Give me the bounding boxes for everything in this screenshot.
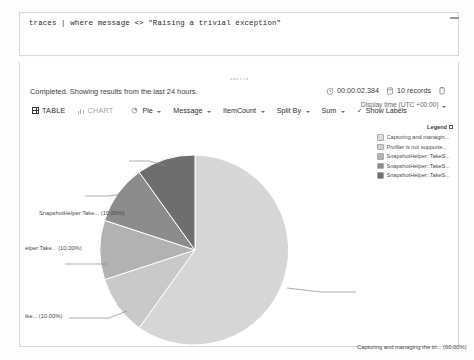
legend-item-label: SnapshotHelper::TakeS... bbox=[387, 153, 450, 159]
split-by-value: Split By bbox=[277, 106, 301, 115]
tab-chart[interactable]: CHART bbox=[76, 105, 116, 116]
pin-icon[interactable] bbox=[449, 125, 454, 130]
aggregation-dropdown[interactable]: Sum bbox=[320, 105, 347, 116]
legend-swatch bbox=[377, 144, 384, 151]
app-root: traces | where message <> "Raising a tri… bbox=[0, 0, 474, 360]
results-status-text: Completed. Showing results from the last… bbox=[30, 87, 198, 96]
chart-area: SnapshotHelper:Take... (10.00%) elper:Ta… bbox=[21, 122, 457, 345]
chevron-down-icon bbox=[341, 111, 345, 113]
query-duration: 00:00:02.384 bbox=[326, 86, 379, 95]
legend-item-label: SnapshotHelper::TakeS... bbox=[387, 163, 450, 169]
chart-type-value: Pie bbox=[142, 106, 152, 115]
timer-icon bbox=[326, 87, 334, 95]
legend-item[interactable]: SnapshotHelper::TakeS... bbox=[377, 161, 455, 171]
pie-icon bbox=[131, 107, 139, 115]
drag-grip-icon[interactable] bbox=[230, 78, 248, 80]
copy-icon[interactable] bbox=[438, 87, 446, 95]
legend-item[interactable]: SnapshotHelper::TakeS... bbox=[377, 171, 455, 181]
x-axis-value: Message bbox=[173, 106, 202, 115]
chart-legend: Legend Capturing and managin...Profiler … bbox=[377, 124, 455, 180]
pie-callout-0: Capturing and managing the tri... (60.00… bbox=[357, 344, 467, 350]
legend-swatch bbox=[377, 163, 384, 170]
query-duration-value: 00:00:02.384 bbox=[337, 86, 379, 95]
tab-table[interactable]: TABLE bbox=[30, 105, 68, 116]
chart-type-dropdown[interactable]: Pie bbox=[129, 105, 163, 116]
legend-item[interactable]: SnapshotHelper::TakeS... bbox=[377, 152, 455, 162]
record-count: 10 records bbox=[386, 86, 431, 95]
y-axis-value: ItemCount bbox=[223, 106, 256, 115]
legend-title: Legend bbox=[427, 124, 447, 130]
legend-item-label: SnapshotHelper::TakeS... bbox=[387, 172, 450, 178]
results-status-row: Completed. Showing results from the last… bbox=[30, 86, 448, 100]
chevron-down-icon bbox=[261, 111, 265, 113]
legend-item-label: Capturing and managin... bbox=[387, 134, 450, 140]
grid-icon bbox=[32, 107, 39, 114]
pie-callout-4: SnapshotHelper:Take... (10.00%) bbox=[39, 210, 124, 216]
results-stats: 00:00:02.384 10 records bbox=[326, 86, 446, 95]
legend-title-row: Legend bbox=[377, 124, 455, 130]
query-text[interactable]: traces | where message <> "Raising a tri… bbox=[29, 19, 281, 27]
tab-chart-label: CHART bbox=[88, 106, 114, 115]
y-axis-dropdown[interactable]: ItemCount bbox=[221, 105, 267, 116]
legend-item[interactable]: Profiler is not supporte... bbox=[377, 142, 455, 152]
split-by-dropdown[interactable]: Split By bbox=[275, 105, 312, 116]
show-labels-label: Show Labels bbox=[366, 106, 407, 115]
results-panel: Completed. Showing results from the last… bbox=[19, 62, 459, 347]
x-axis-dropdown[interactable]: Message bbox=[171, 105, 213, 116]
leader-line-1 bbox=[69, 311, 127, 318]
legend-swatch bbox=[377, 172, 384, 179]
chevron-down-icon bbox=[306, 111, 310, 113]
tab-table-label: TABLE bbox=[42, 106, 66, 115]
legend-item[interactable]: Capturing and managin... bbox=[377, 133, 455, 143]
chevron-down-icon bbox=[157, 111, 161, 113]
record-count-value: 10 records bbox=[397, 86, 431, 95]
legend-item-label: Profiler is not supporte... bbox=[387, 144, 448, 150]
bar-chart-icon bbox=[78, 107, 85, 114]
chevron-down-icon bbox=[207, 111, 211, 113]
results-toolbar: TABLE CHART Pie Message bbox=[30, 103, 450, 118]
show-labels-toggle[interactable]: ✓ Show Labels bbox=[355, 105, 409, 116]
legend-swatch bbox=[377, 153, 384, 160]
legend-items: Capturing and managin...Profiler is not … bbox=[377, 133, 455, 181]
editor-scroll-marker bbox=[450, 17, 459, 19]
leader-line-0 bbox=[287, 288, 356, 292]
pie-callout-2: ike... (10.00%) bbox=[25, 313, 62, 319]
query-editor-panel[interactable]: traces | where message <> "Raising a tri… bbox=[19, 12, 459, 56]
pie-callout-3: elper:Take... (10.00%) bbox=[25, 245, 82, 251]
aggregation-value: Sum bbox=[322, 106, 337, 115]
check-icon: ✓ bbox=[357, 107, 362, 115]
legend-swatch bbox=[377, 134, 384, 141]
database-icon bbox=[386, 87, 394, 95]
